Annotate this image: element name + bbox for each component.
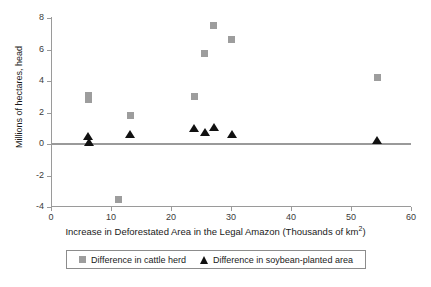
legend-label-cattle: Difference in cattle herd (91, 255, 186, 265)
data-point-triangle (209, 123, 219, 131)
x-tick-label: 40 (276, 212, 306, 222)
triangle-marker-icon (200, 256, 208, 264)
x-axis-title-main: Increase in Deforestated Area in the Leg… (65, 226, 358, 237)
legend-entry-cattle: Difference in cattle herd (79, 255, 186, 265)
plot-area (51, 18, 411, 207)
y-tick-label: -4 (20, 202, 44, 211)
data-point-square (374, 74, 381, 81)
square-marker-icon (79, 256, 86, 263)
x-tick-mark (231, 207, 232, 211)
y-tick-label: -2 (20, 171, 44, 180)
x-tick-label: 10 (96, 212, 126, 222)
x-axis-title-tail: ) (362, 226, 365, 237)
x-tick-mark (51, 207, 52, 211)
data-point-triangle (372, 136, 382, 144)
y-axis-title: Millions of hectares, head (14, 32, 24, 162)
legend-label-soybean: Difference in soybean-planted area (213, 255, 353, 265)
data-point-triangle (125, 130, 135, 138)
data-point-square (115, 196, 122, 203)
x-tick-label: 60 (396, 212, 426, 222)
y-tick-label: 8 (20, 13, 44, 22)
x-tick-label: 30 (216, 212, 246, 222)
data-point-triangle (84, 138, 94, 146)
x-axis-title: Increase in Deforestated Area in the Leg… (0, 226, 431, 237)
x-tick-mark (411, 207, 412, 211)
x-tick-label: 0 (36, 212, 66, 222)
x-tick-label: 50 (336, 212, 366, 222)
x-tick-mark (291, 207, 292, 211)
data-point-square (201, 50, 208, 57)
data-point-square (127, 112, 134, 119)
legend-entry-soybean: Difference in soybean-planted area (200, 255, 353, 265)
data-point-square (210, 22, 217, 29)
chart-legend: Difference in cattle herd Difference in … (66, 250, 366, 269)
x-tick-mark (111, 207, 112, 211)
scatter-chart-figure: -4-202468 0102030405060 Millions of hect… (0, 0, 431, 287)
x-tick-mark (171, 207, 172, 211)
data-point-square (191, 93, 198, 100)
data-point-triangle (189, 124, 199, 132)
x-tick-mark (351, 207, 352, 211)
data-point-square (228, 36, 235, 43)
data-point-square (85, 96, 92, 103)
x-tick-label: 20 (156, 212, 186, 222)
data-point-triangle (227, 130, 237, 138)
